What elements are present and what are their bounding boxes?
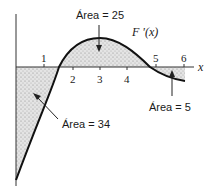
area-label-right: Área = 5 <box>149 101 191 113</box>
tick-1: 1 <box>41 52 47 64</box>
area-label-left: Área = 34 <box>62 118 110 130</box>
tick-4: 4 <box>124 73 130 85</box>
tick-5: 5 <box>153 52 159 64</box>
region-positive-middle <box>59 38 150 67</box>
tick-2: 2 <box>70 73 76 85</box>
tick-3: 3 <box>97 73 103 85</box>
area-label-top: Área = 25 <box>76 9 124 21</box>
tick-6: 6 <box>181 52 187 64</box>
region-negative-right <box>150 67 185 81</box>
x-axis-label: x <box>197 60 204 74</box>
function-label: F '(x) <box>131 25 158 39</box>
chart: 1 2 3 4 5 6 x F '(x) Área = 25 Área = 34… <box>0 0 213 196</box>
